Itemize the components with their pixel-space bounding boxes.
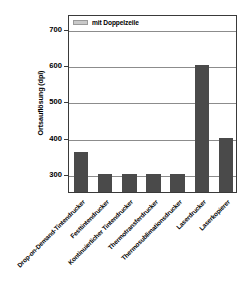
x-axis-category-labels: Drop-on-Demand-TintendruckerFesttintendr… bbox=[0, 0, 248, 295]
bar-chart-figure: Ortsauflösung (dpi) 300400500600700 mit … bbox=[0, 0, 248, 295]
